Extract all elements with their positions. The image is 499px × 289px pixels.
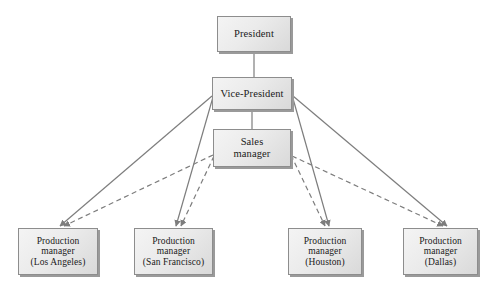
node-label-production-manager-san-francisco: Productionmanager(San Francisco): [143, 236, 204, 268]
connector-vice-president-to-houston: [292, 95, 329, 226]
node-text-line: President: [234, 28, 274, 40]
node-production-manager-los-angeles[interactable]: Productionmanager(Los Angeles): [18, 228, 98, 275]
node-production-manager-dallas[interactable]: Productionmanager(Dallas): [403, 228, 478, 275]
node-text-line: (San Francisco): [143, 257, 204, 268]
node-text-line: (Los Angeles): [31, 257, 86, 268]
node-label-vice-president: Vice-President: [220, 88, 283, 100]
node-text-line: Production: [31, 236, 86, 247]
node-label-president: President: [234, 28, 274, 40]
node-text-line: Sales: [234, 136, 271, 148]
connector-vice-president-to-san-francisco: [176, 97, 213, 226]
org-chart-diagram: PresidentVice-PresidentSalesmanagerProdu…: [0, 0, 499, 289]
node-text-line: Production: [304, 236, 347, 247]
node-text-line: manager: [419, 246, 462, 257]
node-text-line: manager: [234, 148, 271, 160]
node-label-production-manager-dallas: Productionmanager(Dallas): [419, 236, 462, 268]
node-label-production-manager-los-angeles: Productionmanager(Los Angeles): [31, 236, 86, 268]
connector-vice-president-to-dallas: [293, 96, 447, 226]
node-sales-manager[interactable]: Salesmanager: [213, 129, 291, 167]
node-label-sales-manager: Salesmanager: [234, 136, 271, 160]
connector-sales-manager-to-dallas: [292, 156, 443, 226]
node-president[interactable]: President: [217, 16, 291, 52]
node-text-line: manager: [304, 246, 347, 257]
node-text-line: (Dallas): [419, 257, 462, 268]
connector-vice-president-to-los-angeles: [60, 96, 212, 226]
node-text-line: (Houston): [304, 257, 347, 268]
node-production-manager-houston[interactable]: Productionmanager(Houston): [288, 228, 362, 275]
node-text-line: Production: [419, 236, 462, 247]
node-text-line: Production: [143, 236, 204, 247]
node-production-manager-san-francisco[interactable]: Productionmanager(San Francisco): [134, 228, 213, 275]
node-text-line: Vice-President: [220, 88, 283, 100]
node-label-production-manager-houston: Productionmanager(Houston): [304, 236, 347, 268]
node-text-line: manager: [143, 246, 204, 257]
connector-sales-manager-to-los-angeles: [64, 155, 213, 226]
node-vice-president[interactable]: Vice-President: [212, 77, 292, 110]
node-text-line: manager: [31, 246, 86, 257]
connector-sales-manager-to-houston: [291, 155, 325, 226]
